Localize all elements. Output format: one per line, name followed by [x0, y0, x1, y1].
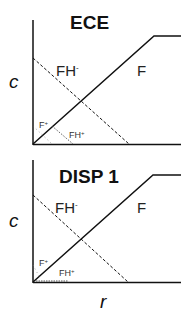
x-axis-label: r — [100, 291, 107, 312]
f-label: F — [137, 62, 146, 79]
diagram: ECE c FH- F F+ FH+ DISP 1 c FH- F F+ FH+… — [0, 0, 188, 320]
fh-plus-label: FH+ — [59, 268, 75, 278]
f-line — [33, 36, 181, 144]
f-label: F — [137, 199, 146, 216]
panel-disp1: DISP 1 c FH- F F+ FH+ — [9, 160, 181, 283]
panel-title: DISP 1 — [59, 166, 119, 187]
f-line — [33, 175, 181, 282]
y-axis-label: c — [9, 210, 19, 231]
fh-plus-label: FH+ — [69, 130, 85, 140]
f-plus-label: F+ — [39, 120, 49, 130]
panel-ece: ECE c FH- F F+ FH+ — [9, 12, 181, 145]
panel-title: ECE — [70, 12, 109, 33]
fh-minus-label: FH- — [55, 199, 78, 216]
f-plus-label: F+ — [39, 258, 49, 268]
y-axis-label: c — [9, 71, 19, 92]
fh-minus-label: FH- — [56, 62, 79, 79]
